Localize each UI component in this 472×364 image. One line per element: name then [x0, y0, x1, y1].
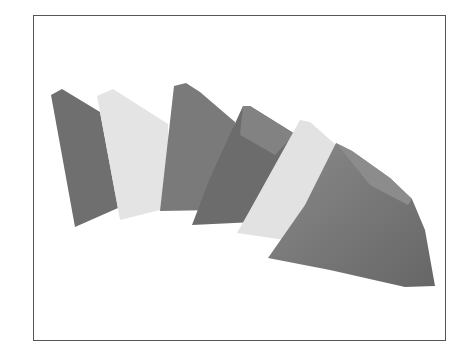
wedge-slices-photo: [0, 0, 472, 364]
